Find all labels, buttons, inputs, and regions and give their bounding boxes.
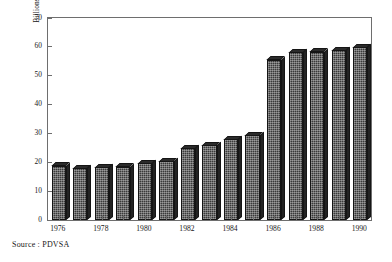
bar-front-face xyxy=(73,168,87,220)
bar xyxy=(353,47,367,220)
bar-side-face xyxy=(152,160,156,220)
y-tick-mark xyxy=(48,162,52,163)
bar xyxy=(310,52,324,220)
x-tick-mark xyxy=(253,216,254,220)
x-tick-mark xyxy=(166,216,167,220)
bar xyxy=(224,139,238,220)
bar-side-face xyxy=(87,165,91,220)
x-tick-mark xyxy=(296,216,297,220)
bar-front-face xyxy=(138,163,152,220)
x-tick-label: 1986 xyxy=(251,224,295,233)
bar xyxy=(289,52,303,220)
bar xyxy=(245,135,259,220)
bar xyxy=(73,168,87,220)
x-tick-mark xyxy=(317,216,318,220)
bar-front-face xyxy=(245,135,259,220)
y-tick-label: 0 xyxy=(2,215,42,224)
x-tick-mark xyxy=(339,216,340,220)
x-tick-mark xyxy=(123,216,124,220)
bar-chart-figure: Billions of Barrels 010203040506070 Sour… xyxy=(0,0,392,262)
y-tick-label: 40 xyxy=(2,99,42,108)
bar-side-face xyxy=(346,47,350,220)
bar-front-face xyxy=(289,52,303,220)
bar-front-face xyxy=(181,148,195,220)
bar-front-face xyxy=(116,167,130,220)
bar-side-face xyxy=(66,162,70,220)
y-tick-label: 10 xyxy=(2,186,42,195)
y-tick-mark xyxy=(48,18,52,19)
bar-front-face xyxy=(310,52,324,220)
bar xyxy=(181,148,195,220)
bar xyxy=(116,167,130,220)
y-tick-mark xyxy=(48,75,52,76)
bar-side-face xyxy=(260,132,264,220)
bar-side-face xyxy=(281,56,285,220)
bar xyxy=(95,167,109,220)
bar-front-face xyxy=(52,166,66,220)
bar xyxy=(138,163,152,220)
bar-side-face xyxy=(174,158,178,220)
bar xyxy=(267,60,281,220)
y-tick-label: 70 xyxy=(2,13,42,22)
y-tick-label: 60 xyxy=(2,41,42,50)
bar-front-face xyxy=(267,60,281,220)
bar-front-face xyxy=(332,50,346,220)
x-tick-mark xyxy=(274,216,275,220)
bar-front-face xyxy=(224,139,238,220)
x-tick-mark xyxy=(59,216,60,220)
x-tick-mark xyxy=(80,216,81,220)
bar xyxy=(202,145,216,220)
bar-side-face xyxy=(367,44,371,220)
plot-frame: Billions of Barrels 010203040506070 xyxy=(47,17,372,221)
x-tick-label: 1976 xyxy=(36,224,80,233)
bar-front-face xyxy=(202,145,216,220)
y-tick-mark xyxy=(48,46,52,47)
x-tick-label: 1978 xyxy=(79,224,123,233)
bar-front-face xyxy=(353,47,367,220)
y-tick-label: 30 xyxy=(2,128,42,137)
bar-side-face xyxy=(217,142,221,220)
bar-side-face xyxy=(303,49,307,220)
bar-front-face xyxy=(95,167,109,220)
y-tick-label: 20 xyxy=(2,157,42,166)
x-tick-label: 1980 xyxy=(122,224,166,233)
x-tick-mark xyxy=(231,216,232,220)
bar-side-face xyxy=(130,163,134,220)
x-tick-label: 1984 xyxy=(208,224,252,233)
y-axis-title: Billions of Barrels xyxy=(32,0,41,64)
bar-side-face xyxy=(195,145,199,220)
bar xyxy=(159,161,173,220)
x-tick-label: 1982 xyxy=(165,224,209,233)
x-tick-mark xyxy=(145,216,146,220)
source-caption: Source : PDVSA xyxy=(12,240,69,249)
x-tick-label: 1988 xyxy=(294,224,338,233)
bar xyxy=(52,166,66,220)
y-tick-mark xyxy=(48,104,52,105)
bar-side-face xyxy=(109,164,113,220)
bar-front-face xyxy=(159,161,173,220)
x-tick-mark xyxy=(188,216,189,220)
x-tick-mark xyxy=(102,216,103,220)
bar xyxy=(332,50,346,220)
plot-area: 010203040506070 xyxy=(48,18,371,220)
x-tick-mark xyxy=(360,216,361,220)
bar-side-face xyxy=(238,136,242,220)
x-tick-label: 1990 xyxy=(337,224,381,233)
y-tick-label: 50 xyxy=(2,70,42,79)
x-tick-mark xyxy=(210,216,211,220)
y-tick-mark xyxy=(48,133,52,134)
bar-side-face xyxy=(324,48,328,220)
